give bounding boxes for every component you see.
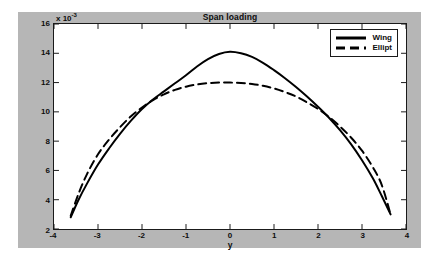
x-tick-label: -2 [131, 231, 153, 240]
legend-label-ellipt: Ellipt [372, 43, 392, 53]
y-tick-label: 6 [30, 166, 50, 175]
legend-label-wing: Wing [372, 33, 391, 43]
chart-title: Span loading [53, 12, 407, 23]
x-axis-label: y [53, 240, 407, 250]
legend-line-sample-solid [335, 33, 367, 43]
legend[interactable]: Wing Ellipt [330, 29, 398, 57]
figure-panel: Span loading x 10-3 246810121416 Wing El… [18, 12, 421, 248]
legend-item-ellipt[interactable]: Ellipt [335, 43, 392, 53]
x-tick-label: 3 [352, 231, 374, 240]
legend-item-wing[interactable]: Wing [335, 33, 392, 43]
series-line-ellipt [71, 83, 391, 216]
y-axis-exponent-label: x 10-3 [56, 12, 77, 23]
x-tick-label: -3 [86, 231, 108, 240]
y-tick-label: 4 [30, 196, 50, 205]
x-tick-label: 2 [308, 231, 330, 240]
x-tick-label: 1 [263, 231, 285, 240]
y-exponent-base: x 10 [56, 13, 72, 22]
y-axis-tick-labels: 246810121416 [26, 23, 50, 230]
x-tick-label: 4 [396, 231, 418, 240]
y-exponent-power: -3 [72, 12, 77, 18]
series-line-wing [71, 52, 391, 217]
y-tick-label: 14 [30, 48, 50, 57]
x-tick-label: -4 [42, 231, 64, 240]
x-tick-label: 0 [219, 231, 241, 240]
legend-line-sample-dashed [335, 43, 367, 53]
y-tick-label: 16 [30, 19, 50, 28]
plot-area: Wing Ellipt [53, 23, 407, 230]
y-tick-label: 8 [30, 137, 50, 146]
data-series-group [71, 52, 391, 217]
x-tick-label: -1 [175, 231, 197, 240]
y-tick-label: 10 [30, 107, 50, 116]
y-tick-label: 12 [30, 78, 50, 87]
